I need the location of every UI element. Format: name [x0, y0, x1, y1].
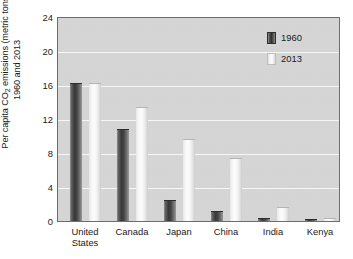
co2-emissions-bar-chart: Per capita CO2 emissions (metric tons), …: [0, 0, 353, 259]
y-tick-label: 24: [43, 13, 53, 22]
y-tick-label: 20: [43, 47, 53, 56]
y-axis-title-part2: emissions (metric tons),: [0, 0, 10, 88]
legend-entry-1960: 1960: [267, 30, 331, 45]
bar-1960-united-states: [70, 83, 82, 221]
y-tick-label: 4: [48, 183, 53, 192]
plot-area: 1960 2013: [57, 17, 340, 222]
legend-label-1960: 1960: [281, 33, 302, 42]
bar-1960-canada: [117, 129, 129, 221]
legend-label-2013: 2013: [281, 54, 302, 63]
bar-2013-japan: [183, 139, 195, 221]
bar-1960-india: [258, 218, 270, 221]
y-tick-label: 12: [43, 115, 53, 124]
y-tick-label: 16: [43, 81, 53, 90]
y-axis-title-subscript: 2: [4, 88, 11, 92]
bar-2013-india: [277, 207, 289, 221]
bar-2013-canada: [136, 107, 148, 221]
x-label-kenya: Kenya: [292, 226, 348, 237]
x-label-line2: States: [57, 237, 113, 248]
bar-2013-kenya: [324, 218, 336, 221]
legend-swatch-icon-1960: [267, 32, 276, 44]
legend-swatch-icon-2013: [267, 53, 276, 65]
y-axis-title-part1: Per capita CO: [0, 92, 10, 148]
y-tick-label: 0: [48, 217, 53, 226]
legend: 1960 2013: [267, 30, 331, 72]
y-axis-tick-labels: 24 20 16 12 8 4 0: [28, 17, 53, 222]
y-axis-title-line2: 1960 and 2013: [12, 0, 24, 165]
bar-2013-china: [230, 158, 242, 221]
bar-1960-china: [211, 211, 223, 221]
x-axis-category-labels: United States Canada Japan China India K…: [57, 226, 340, 256]
x-label-line1: Kenya: [292, 226, 348, 237]
legend-entry-2013: 2013: [267, 51, 331, 66]
bar-2013-united-states: [89, 83, 101, 221]
y-tick-label: 8: [48, 149, 53, 158]
bar-1960-japan: [164, 200, 176, 221]
bar-1960-kenya: [305, 219, 317, 221]
